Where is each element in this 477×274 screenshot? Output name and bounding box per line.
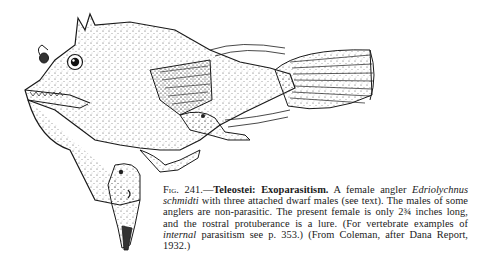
caption-text-3: parasitism see p. 353.) (From Coleman, a… — [163, 229, 468, 251]
caption-text-2: with three attached dwarf males (see tex… — [163, 195, 468, 228]
figure-plate: Fig. 241.—Teleostei: Exoparasitism. A fe… — [0, 0, 477, 274]
caption-text-1: A female angler — [329, 184, 412, 195]
figure-number: Fig. 241.— — [163, 184, 213, 195]
caption-emphasis: internal — [163, 229, 196, 240]
female-angler-body — [25, 14, 295, 205]
dwarf-male-2 — [140, 150, 200, 172]
figure-title: Teleostei: Exoparasitism. — [213, 184, 328, 195]
figure-caption: Fig. 241.—Teleostei: Exoparasitism. A fe… — [163, 184, 468, 251]
dwarf-male-3 — [108, 164, 140, 250]
